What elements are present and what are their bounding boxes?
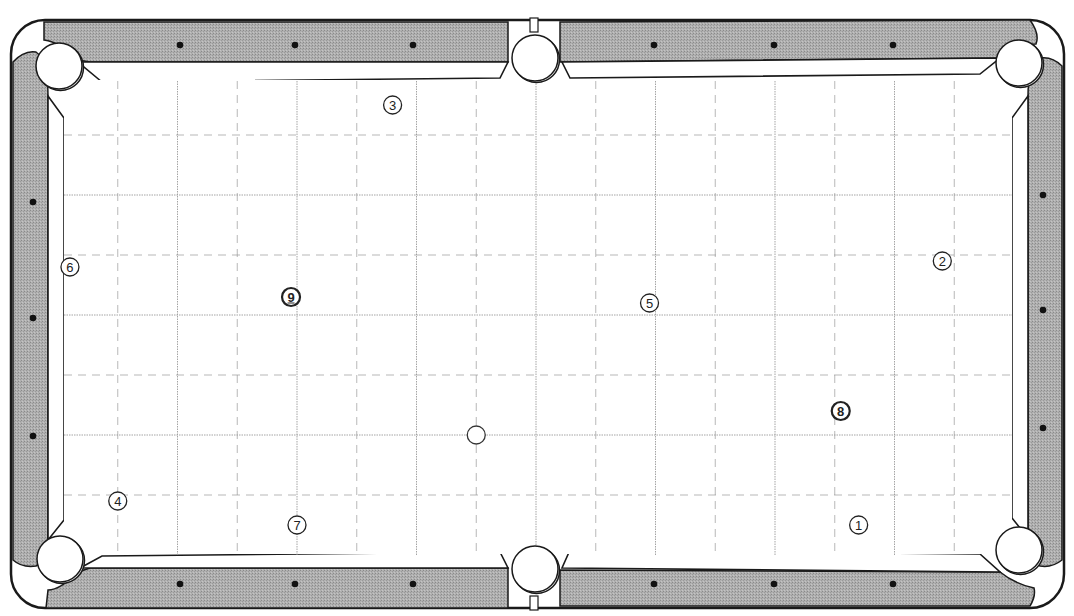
rail-diamond xyxy=(410,42,417,49)
rail-diamond xyxy=(651,581,658,588)
pocket-bottom-right xyxy=(996,527,1044,575)
ball-number-label: 5 xyxy=(646,296,653,311)
pocket-top-right xyxy=(996,40,1044,88)
pocket-top-left xyxy=(36,43,84,91)
object-ball-7: 7 xyxy=(288,516,306,534)
object-ball-5: 5 xyxy=(641,294,659,312)
rail-top-left xyxy=(44,22,508,62)
rail-bottom-left xyxy=(46,568,508,608)
pool-table: 123456789 xyxy=(0,0,1074,616)
rail-diamond xyxy=(771,581,778,588)
rail-diamond xyxy=(890,581,897,588)
rail-diamond xyxy=(30,433,37,440)
rail-top-right xyxy=(560,20,1037,62)
object-ball-4: 4 xyxy=(109,492,127,510)
ball-number-label: 1 xyxy=(855,518,862,533)
rail-diamond xyxy=(651,42,658,49)
rail-diamond xyxy=(410,581,417,588)
rail-diamond xyxy=(1040,192,1047,199)
cushion-top-left xyxy=(78,62,508,82)
object-ball-3: 3 xyxy=(384,96,402,114)
rail-diamond xyxy=(771,42,778,49)
rail-diamond xyxy=(292,42,299,49)
cushion-right xyxy=(1012,96,1028,538)
object-ball-6: 6 xyxy=(61,258,79,276)
rail-diamond xyxy=(30,199,37,206)
ball-number-label: 3 xyxy=(389,98,396,113)
object-ball-9: 9 xyxy=(282,288,300,306)
rail-diamond xyxy=(890,42,897,49)
rail-diamond xyxy=(292,581,299,588)
ball-number-label: 2 xyxy=(939,254,946,269)
rail-left xyxy=(13,52,48,567)
pocket-bottom-left xyxy=(37,536,85,584)
bottom-middle-post xyxy=(530,596,538,610)
object-ball-2: 2 xyxy=(933,252,951,270)
rail-diamond xyxy=(30,315,37,322)
ball-number-label: 8 xyxy=(837,404,844,419)
ball-number-label: 4 xyxy=(114,494,121,509)
pocket-top-middle xyxy=(512,35,560,83)
rail-diamond xyxy=(177,581,184,588)
top-middle-post xyxy=(530,18,538,32)
rail-diamond xyxy=(1040,307,1047,314)
ball-number-label: 7 xyxy=(293,518,300,533)
rail-bottom-right xyxy=(560,570,1035,606)
cushion-left xyxy=(48,96,64,540)
ball-number-label: 6 xyxy=(66,260,73,275)
playing-surface xyxy=(64,80,1012,554)
object-ball-8: 8 xyxy=(832,402,850,420)
object-ball-1: 1 xyxy=(850,516,868,534)
cushion-top-right xyxy=(562,58,1000,78)
rail-diamond xyxy=(177,42,184,49)
pocket-bottom-middle xyxy=(512,546,560,594)
rail-diamond xyxy=(1040,425,1047,432)
cue-ball xyxy=(467,426,485,444)
